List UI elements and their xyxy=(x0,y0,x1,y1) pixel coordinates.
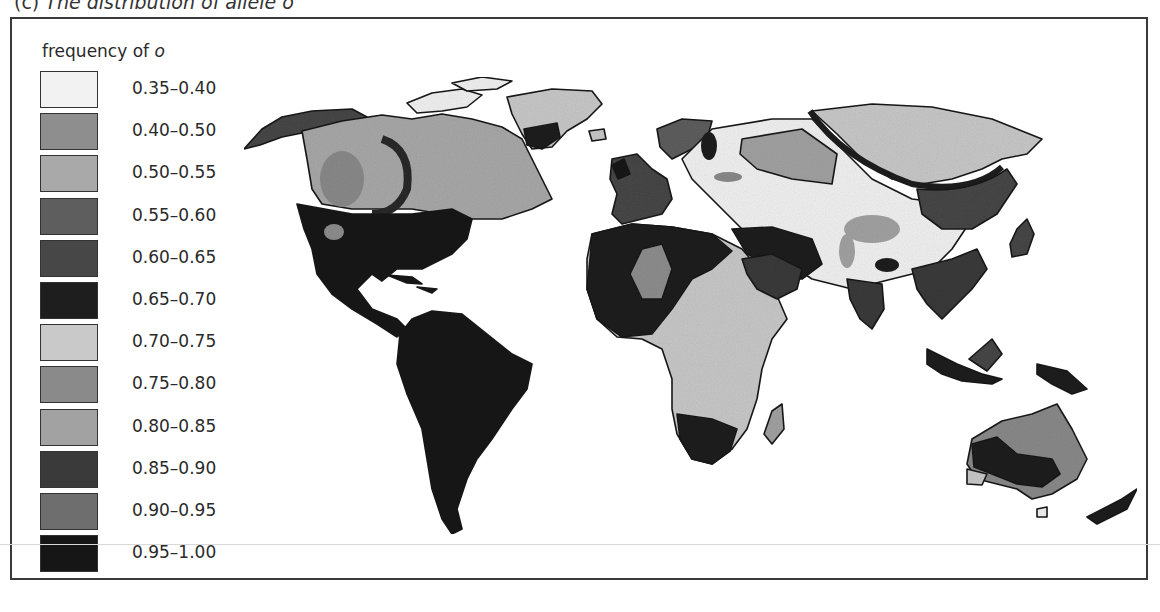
legend-swatch xyxy=(40,366,98,403)
region-south-america xyxy=(397,311,532,534)
legend-swatch xyxy=(40,451,98,488)
legend-swatch xyxy=(40,535,98,572)
legend-swatch xyxy=(40,493,98,530)
legend-label: 0.85–0.90 xyxy=(132,458,216,478)
region-canada-inner xyxy=(320,151,364,207)
legend-label: 0.65–0.70 xyxy=(132,289,216,309)
legend-title-allele: o xyxy=(154,41,164,61)
legend-swatch xyxy=(40,324,98,361)
legend-label: 0.60–0.65 xyxy=(132,247,216,267)
legend-label: 0.95–1.00 xyxy=(132,542,216,562)
legend-swatch xyxy=(40,198,98,235)
legend-label: 0.55–0.60 xyxy=(132,205,216,225)
figure-frame: frequency of o 0.35–0.400.40–0.500.50–0.… xyxy=(10,17,1148,580)
page-divider xyxy=(0,544,1160,545)
legend-swatch xyxy=(40,113,98,150)
region-india xyxy=(847,279,884,329)
region-new-zealand xyxy=(1087,489,1137,524)
caption-text: The distribution of allele o xyxy=(45,0,294,13)
region-madagascar xyxy=(764,404,784,444)
caption-prefix: (c) xyxy=(14,0,39,13)
figure-caption: (c) The distribution of allele o xyxy=(14,0,294,13)
legend-label: 0.70–0.75 xyxy=(132,331,216,351)
legend-swatch xyxy=(40,240,98,277)
legend-label: 0.50–0.55 xyxy=(132,162,216,182)
region-arctic-islands xyxy=(407,89,482,113)
legend-label: 0.80–0.85 xyxy=(132,416,216,436)
legend-swatch xyxy=(40,409,98,446)
legend-label: 0.90–0.95 xyxy=(132,500,216,520)
legend-label: 0.40–0.50 xyxy=(132,120,216,140)
region-usa-southwest xyxy=(324,224,344,240)
legend-swatch xyxy=(40,155,98,192)
region-new-guinea xyxy=(1037,364,1087,394)
legend-label: 0.35–0.40 xyxy=(132,78,216,98)
legend-label: 0.75–0.80 xyxy=(132,373,216,393)
world-map xyxy=(232,49,1142,569)
legend-title: frequency of o xyxy=(42,41,165,61)
legend-swatch xyxy=(40,282,98,319)
legend-swatch xyxy=(40,71,98,108)
region-japan xyxy=(1010,219,1034,257)
